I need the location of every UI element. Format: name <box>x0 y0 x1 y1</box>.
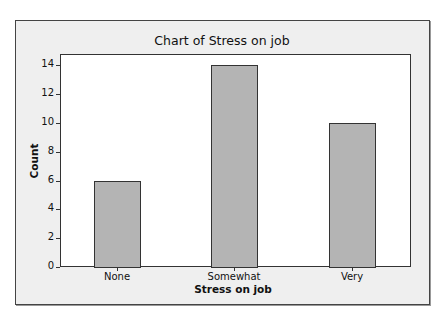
y-tick-label: 4 <box>34 202 54 213</box>
y-tick-mark <box>56 65 60 66</box>
bar-none <box>94 181 141 268</box>
x-tick-mark <box>352 267 353 271</box>
y-tick-label: 0 <box>34 260 54 271</box>
x-axis-label: Stress on job <box>0 283 444 295</box>
y-tick-label: 10 <box>34 116 54 127</box>
y-tick-label: 14 <box>34 58 54 69</box>
y-tick-mark <box>56 209 60 210</box>
x-tick-mark <box>117 267 118 271</box>
x-tick-label: None <box>77 271 157 282</box>
y-axis-label: Count <box>28 131 40 191</box>
y-tick-mark <box>56 181 60 182</box>
y-tick-label: 2 <box>34 231 54 242</box>
y-tick-label: 12 <box>34 87 54 98</box>
x-tick-label: Somewhat <box>194 271 274 282</box>
y-tick-mark <box>56 267 60 268</box>
y-tick-mark <box>56 123 60 124</box>
bar-somewhat <box>211 65 258 268</box>
y-tick-mark <box>56 152 60 153</box>
x-tick-label: Very <box>312 271 392 282</box>
chart-title: Chart of Stress on job <box>0 33 444 48</box>
bar-very <box>329 123 376 268</box>
y-tick-mark <box>56 94 60 95</box>
y-tick-mark <box>56 238 60 239</box>
x-tick-mark <box>234 267 235 271</box>
